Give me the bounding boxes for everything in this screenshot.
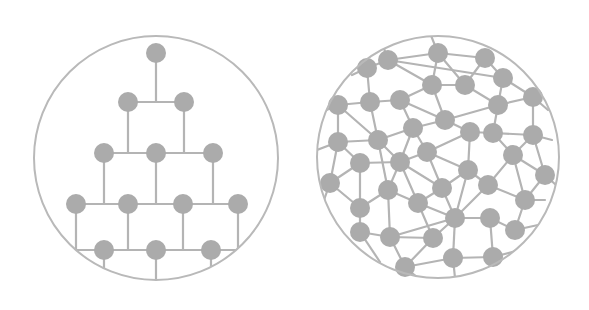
node (488, 95, 508, 115)
node (480, 208, 500, 228)
node (443, 248, 463, 268)
node (203, 143, 223, 163)
node (423, 228, 443, 248)
node (475, 48, 495, 68)
network-diagram (0, 0, 589, 310)
node (455, 75, 475, 95)
node (94, 143, 114, 163)
node (493, 68, 513, 88)
node (173, 194, 193, 214)
node (435, 110, 455, 130)
node (503, 145, 523, 165)
node (417, 142, 437, 162)
node (523, 87, 543, 107)
node (523, 125, 543, 145)
node (432, 178, 452, 198)
node (483, 123, 503, 143)
node (66, 194, 86, 214)
node (458, 160, 478, 180)
node (380, 227, 400, 247)
hierarchical-network (34, 36, 278, 282)
node (94, 240, 114, 260)
node (228, 194, 248, 214)
node (328, 132, 348, 152)
node (146, 43, 166, 63)
node (408, 193, 428, 213)
node (378, 180, 398, 200)
node (390, 152, 410, 172)
mesh-nodes (320, 43, 555, 277)
node (460, 122, 480, 142)
node (360, 92, 380, 112)
node (445, 208, 465, 228)
node (535, 165, 555, 185)
node (478, 175, 498, 195)
node (146, 240, 166, 260)
node (428, 43, 448, 63)
node (368, 130, 388, 150)
node (174, 92, 194, 112)
node (350, 153, 370, 173)
node (328, 95, 348, 115)
distributed-network (317, 33, 559, 278)
node (201, 240, 221, 260)
node (357, 58, 377, 78)
node (390, 90, 410, 110)
node (146, 143, 166, 163)
node (118, 194, 138, 214)
node (515, 190, 535, 210)
node (118, 92, 138, 112)
node (505, 220, 525, 240)
node (350, 198, 370, 218)
node (422, 75, 442, 95)
node (350, 222, 370, 242)
node (378, 50, 398, 70)
node (320, 173, 340, 193)
node (403, 118, 423, 138)
